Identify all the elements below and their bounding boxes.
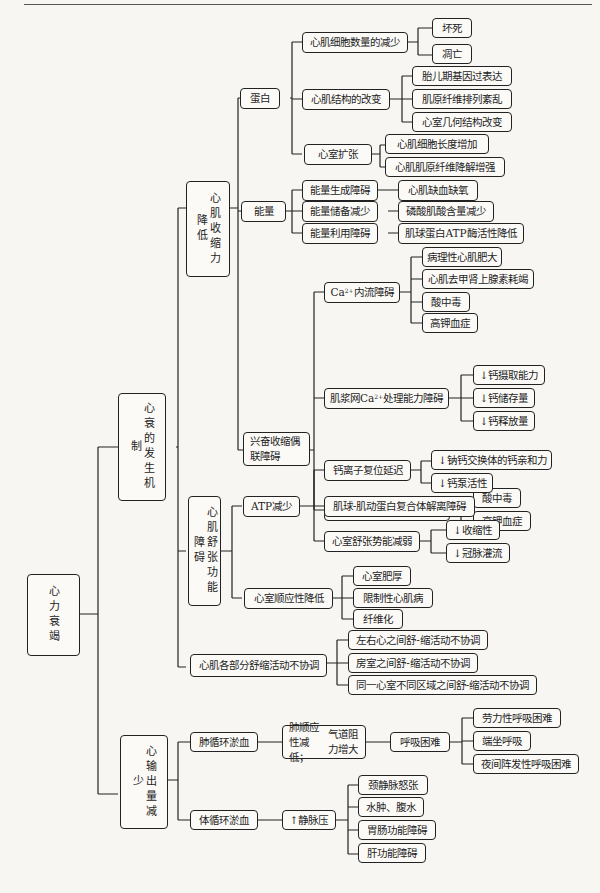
node-norepinephrine-depletion: 心肌去甲肾上腺素耗竭 <box>422 269 534 289</box>
node-fetal-gene: 胎儿期基因过表达 <box>412 66 512 86</box>
node-liver-dysfunction: 肝功能障碍 <box>358 843 426 863</box>
node-acidosis-1: 酸中毒 <box>422 292 470 312</box>
sr-pre: 肌浆网Ca <box>330 392 374 405</box>
node-fibrosis: 纤维化 <box>353 609 403 629</box>
node-ca-release: ↓钙释放量 <box>473 411 535 431</box>
node-ca-reset-delay: 钙离子复位延迟 <box>324 460 411 481</box>
node-cell-length: 心肌细胞长度增加 <box>385 134 489 154</box>
node-ca-pump: ↓钙泵活性 <box>431 473 493 493</box>
node-orthopnea: 端坐呼吸 <box>473 731 531 751</box>
node-restrictive-cardiomyopathy: 限制性心肌病 <box>353 588 433 608</box>
node-phosphocreatine: 磷酸肌酸含量减少 <box>398 201 494 222</box>
node-ca-uptake: ↓钙摄取能力 <box>473 365 545 385</box>
node-energy-generation: 能量生成障碍 <box>302 180 378 201</box>
ca-influx-pre: Ca <box>330 286 344 299</box>
node-geometry-change: 心室几何结构改变 <box>412 112 512 132</box>
node-contractility-decrease: 心肌收缩力降低 <box>186 181 230 277</box>
pulmonary-cause-line1: 肺顺应性减低； <box>289 720 328 765</box>
node-energy-utilization: 能量利用障碍 <box>302 223 378 244</box>
node-pulmonary-congestion: 肺循环淤血 <box>190 732 258 752</box>
node-dyspnea: 呼吸困难 <box>390 732 450 752</box>
node-energy: 能量 <box>241 201 286 222</box>
node-myosin-atpase: 肌球蛋白ATP酶活性降低 <box>398 223 524 244</box>
node-ventricular-dilation: 心室扩张 <box>304 144 372 165</box>
node-pnd: 夜间阵发性呼吸困难 <box>473 754 579 774</box>
node-venous-pressure: ↑静脉压 <box>282 810 336 830</box>
node-necrosis: 坏死 <box>432 18 472 38</box>
node-edema-ascites: 水肿、腹水 <box>358 797 424 817</box>
node-ca-influx: Ca2+内流障碍 <box>324 282 400 303</box>
node-actomyosin-dissociation: 肌球-肌动蛋白复合体解离障碍 <box>324 496 475 517</box>
node-ischemia-hypoxia: 心肌缺血缺氧 <box>398 180 478 201</box>
node-structure-change: 心肌结构的改变 <box>302 89 390 110</box>
node-ca-storage: ↓钙储存量 <box>473 388 535 408</box>
sr-sup: 2+ <box>374 390 383 403</box>
node-ncx-affinity: ↓钠钙交换体的钙亲和力 <box>431 450 552 470</box>
sr-post: 处理能力障碍 <box>383 392 443 405</box>
node-coronary-perfusion: ↓冠脉灌流 <box>446 543 510 563</box>
node-mechanism: 心衰的发生机制 <box>118 393 166 501</box>
node-cardiac-output-decrease: 心输出量减少 <box>120 735 168 829</box>
node-ec-coupling: 兴奋收缩偶联障碍 <box>243 432 310 466</box>
ca-influx-sup: 2+ <box>345 284 354 297</box>
node-regional-discoord: 同一心室不同区域之间舒-缩活动不协调 <box>348 675 537 695</box>
node-systemic-congestion: 体循环淤血 <box>190 810 258 830</box>
node-sr-ca-handling: 肌浆网Ca2+处理能力障碍 <box>324 388 449 409</box>
node-apoptosis: 凋亡 <box>432 44 472 64</box>
node-diastolic-potential: 心室舒张势能减弱 <box>324 531 420 552</box>
node-protein: 蛋白 <box>240 88 280 109</box>
pulmonary-cause-line2: 气道阻力增大 <box>328 727 361 757</box>
node-pathologic-hypertrophy: 病理性心肌肥大 <box>422 247 502 267</box>
node-gi-dysfunction: 胃肠功能障碍 <box>358 820 436 840</box>
node-cell-loss: 心肌细胞数量的减少 <box>302 32 408 53</box>
node-discoordination: 心肌各部分舒缩活动不协调 <box>190 654 327 677</box>
node-hyperkalemia-1: 高钾血症 <box>422 313 478 333</box>
node-atrioventricular-discoord: 房室之间舒-缩活动不协调 <box>348 653 478 673</box>
node-jugular-distension: 颈静脉怒张 <box>358 775 428 795</box>
node-exertional-dyspnea: 劳力性呼吸困难 <box>473 708 561 728</box>
node-atp-decrease: ATP减少 <box>243 496 300 517</box>
node-compliance-decrease: 心室顺应性降低 <box>244 588 333 609</box>
node-ventricular-hypertrophy: 心室肥厚 <box>353 566 411 586</box>
node-diastolic-dysfunction: 心肌舒张功能障碍 <box>188 496 221 606</box>
node-heart-failure: 心力衰竭 <box>27 574 80 656</box>
node-contractility: ↓收缩性 <box>446 520 500 540</box>
node-pulmonary-compliance: 肺顺应性减低； 气道阻力增大 <box>282 725 366 759</box>
node-left-right-discoord: 左右心之间舒-缩活动不协调 <box>348 630 488 650</box>
ca-influx-post: 内流障碍 <box>354 286 394 299</box>
node-energy-storage: 能量储备减少 <box>302 201 378 222</box>
node-myofibril-disarray: 肌原纤维排列紊乱 <box>412 89 512 109</box>
node-myofibril-degradation: 心肌肌原纤维降解增强 <box>385 157 505 177</box>
